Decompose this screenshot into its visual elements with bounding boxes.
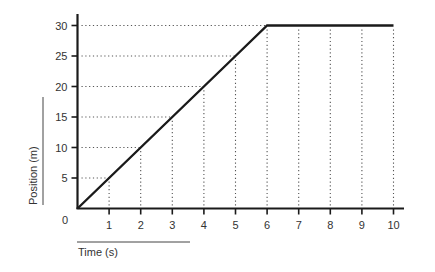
y-tick-label: 5	[61, 172, 67, 184]
ticks: 5101520253012345678910	[55, 20, 399, 231]
x-tick-label: 4	[201, 219, 207, 231]
x-tick-label: 1	[106, 219, 112, 231]
x-tick-label: 3	[169, 219, 175, 231]
y-tick-label: 25	[55, 50, 67, 62]
x-tick-label: 9	[359, 219, 365, 231]
y-axis-label: Position (m)	[27, 146, 39, 205]
y-tick-label: 20	[55, 81, 67, 93]
position-time-chart: 5101520253012345678910 0 Position (m) Ti…	[0, 0, 435, 272]
y-tick-label: 30	[55, 20, 67, 32]
x-tick-label: 8	[327, 219, 333, 231]
x-axis-label: Time (s)	[78, 246, 118, 258]
y-tick-label: 10	[55, 142, 67, 154]
x-tick-label: 6	[264, 219, 270, 231]
origin-label: 0	[62, 214, 68, 226]
x-tick-label: 2	[138, 219, 144, 231]
x-tick-label: 7	[296, 219, 302, 231]
x-tick-label: 5	[232, 219, 238, 231]
y-tick-label: 15	[55, 111, 67, 123]
x-tick-label: 10	[387, 219, 399, 231]
axes	[77, 14, 405, 209]
